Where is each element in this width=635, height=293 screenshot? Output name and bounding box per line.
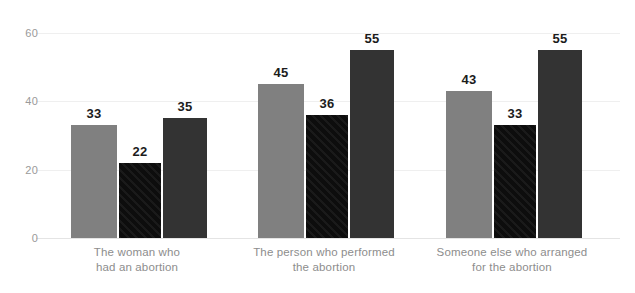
category-label-2-line-1: The person who performed — [240, 245, 408, 260]
bar-value-label-g3-s1: 43 — [436, 73, 502, 87]
bar-value-label-g2-s2: 36 — [296, 97, 358, 111]
bar-wrap-g1-s2: 22 — [119, 163, 161, 238]
category-label-3: Someone else who arranged for the aborti… — [428, 245, 596, 275]
bar-g1-s3[interactable] — [163, 118, 207, 238]
category-label-3-line-2: for the abortion — [428, 260, 596, 275]
bar-g3-s2[interactable] — [494, 125, 536, 238]
bar-value-label-g1-s1: 33 — [61, 107, 127, 121]
bar-value-label-g1-s3: 35 — [153, 100, 217, 114]
category-label-3-line-1: Someone else who arranged — [428, 245, 596, 260]
bar-group-3-bars: 43 33 55 — [446, 33, 578, 238]
bar-value-label-g3-s3: 55 — [528, 32, 592, 46]
plot-area: 33 22 35 The woman who had an abortion — [0, 0, 635, 293]
bar-chart: 60 40 20 0 33 22 35 The woman — [0, 0, 635, 293]
bar-g1-s2[interactable] — [119, 163, 161, 238]
bar-wrap-g2-s3: 55 — [350, 50, 394, 238]
bar-value-label-g1-s2: 22 — [109, 145, 171, 159]
bar-wrap-g3-s2: 33 — [494, 125, 536, 238]
category-label-1-line-2: had an abortion — [53, 260, 221, 275]
bar-g1-s1[interactable] — [71, 125, 117, 238]
bar-group-3: 43 33 55 Someone else who arranged for t… — [446, 0, 578, 293]
category-label-2: The person who performed the abortion — [240, 245, 408, 275]
bar-g2-s2[interactable] — [306, 115, 348, 238]
bar-g2-s3[interactable] — [350, 50, 394, 238]
category-label-1: The woman who had an abortion — [53, 245, 221, 275]
bar-group-2-bars: 45 36 55 — [258, 33, 390, 238]
bar-value-label-g3-s2: 33 — [484, 107, 546, 121]
bar-value-label-g2-s1: 45 — [248, 66, 314, 80]
bar-wrap-g1-s3: 35 — [163, 118, 207, 238]
bar-group-2: 45 36 55 The person who performed the ab… — [258, 0, 390, 293]
bar-g3-s3[interactable] — [538, 50, 582, 238]
bar-group-1-bars: 33 22 35 — [71, 33, 203, 238]
category-label-1-line-1: The woman who — [53, 245, 221, 260]
bar-wrap-g2-s2: 36 — [306, 115, 348, 238]
bar-wrap-g1-s1: 33 — [71, 125, 117, 238]
bar-value-label-g2-s3: 55 — [340, 32, 404, 46]
category-label-2-line-2: the abortion — [240, 260, 408, 275]
bar-wrap-g3-s3: 55 — [538, 50, 582, 238]
bar-group-1: 33 22 35 The woman who had an abortion — [71, 0, 203, 293]
